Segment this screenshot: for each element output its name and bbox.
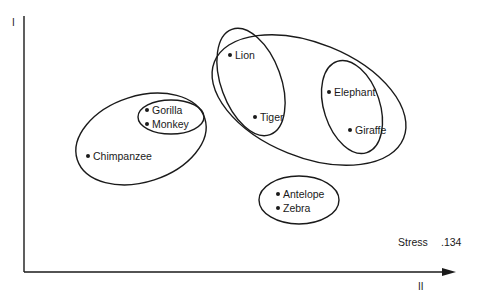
svg-text:Gorilla: Gorilla (152, 104, 183, 116)
svg-text:Tiger: Tiger (260, 111, 284, 123)
y-axis-label: I (12, 17, 15, 28)
cluster-elephant-giraffe (311, 53, 394, 162)
point-antelope: Antelope (276, 188, 325, 200)
mds-diagram: I II Gorilla Monkey Chimpanzee Lion Tige… (0, 0, 489, 304)
point-gorilla: Gorilla (145, 104, 183, 116)
svg-text:Monkey: Monkey (152, 118, 190, 130)
cluster-primates (64, 77, 218, 200)
cluster-large-animals (193, 9, 425, 191)
svg-text:Elephant: Elephant (334, 86, 376, 98)
stress-label: Stress (398, 236, 428, 248)
point-monkey: Monkey (145, 118, 190, 130)
point-zebra: Zebra (276, 202, 311, 214)
point-giraffe: Giraffe (348, 124, 386, 136)
point-chimpanzee: Chimpanzee (86, 150, 152, 162)
cluster-antelope-zebra (259, 176, 339, 224)
stress-value: .134 (441, 236, 462, 248)
svg-text:Zebra: Zebra (283, 202, 311, 214)
svg-text:Antelope: Antelope (283, 188, 325, 200)
point-lion: Lion (228, 49, 255, 61)
point-tiger: Tiger (253, 111, 284, 123)
point-elephant: Elephant (327, 86, 376, 98)
x-axis-label: II (418, 281, 424, 292)
svg-text:Lion: Lion (235, 49, 255, 61)
svg-text:Chimpanzee: Chimpanzee (93, 150, 152, 162)
x-axis-arrow-icon (442, 268, 456, 276)
cluster-big-cats (204, 19, 299, 145)
svg-text:Giraffe: Giraffe (355, 124, 386, 136)
